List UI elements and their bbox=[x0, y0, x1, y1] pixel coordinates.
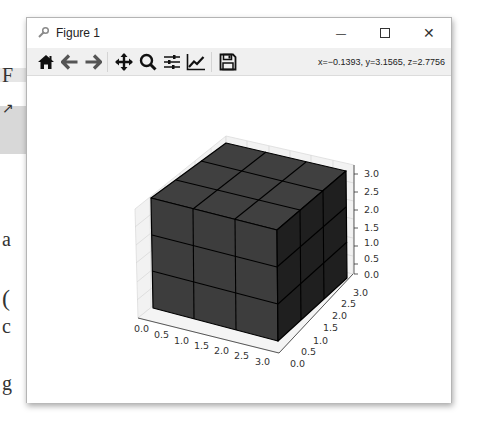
forward-button[interactable] bbox=[82, 51, 104, 73]
z-axis-tick-labels: 3.0 2.5 2.0 1.5 1.0 0.5 0.0 bbox=[364, 168, 379, 280]
arrow-left-icon bbox=[61, 54, 79, 70]
background-glyph: g bbox=[2, 372, 12, 395]
floppy-disk-icon bbox=[219, 53, 237, 71]
svg-text:1.0: 1.0 bbox=[174, 335, 189, 346]
maximize-icon bbox=[380, 28, 390, 38]
configure-subplots-button[interactable] bbox=[161, 51, 183, 73]
window-title: Figure 1 bbox=[56, 26, 100, 40]
svg-text:2.0: 2.0 bbox=[332, 310, 347, 321]
svg-text:0.5: 0.5 bbox=[301, 346, 316, 357]
svg-text:2.5: 2.5 bbox=[364, 186, 379, 197]
cursor-coordinates: x=−0.1393, y=3.1565, z=2.7756 bbox=[318, 57, 445, 67]
move-icon bbox=[115, 53, 133, 71]
background-glyph: ↗ bbox=[2, 100, 14, 117]
minimize-icon: — bbox=[336, 28, 346, 39]
background-app-edge: F ↗ a ( c g bbox=[0, 0, 28, 424]
toolbar-separator bbox=[107, 52, 108, 72]
toolbar-separator bbox=[211, 52, 212, 72]
svg-text:3.0: 3.0 bbox=[353, 287, 368, 298]
svg-text:1.0: 1.0 bbox=[313, 335, 328, 346]
svg-text:3.0: 3.0 bbox=[364, 168, 379, 179]
svg-text:2.5: 2.5 bbox=[341, 298, 356, 309]
home-icon bbox=[37, 54, 55, 70]
svg-text:1.0: 1.0 bbox=[364, 237, 379, 248]
svg-text:1.5: 1.5 bbox=[194, 340, 209, 351]
minimize-button[interactable]: — bbox=[319, 18, 363, 48]
navigation-toolbar: x=−0.1393, y=3.1565, z=2.7756 bbox=[27, 48, 451, 76]
background-glyph: c bbox=[2, 315, 11, 338]
back-button[interactable] bbox=[59, 51, 81, 73]
svg-text:1.5: 1.5 bbox=[364, 222, 379, 233]
svg-text:2.5: 2.5 bbox=[234, 350, 249, 361]
matplotlib-app-icon bbox=[36, 26, 50, 40]
svg-text:0.5: 0.5 bbox=[154, 329, 169, 340]
z-axis bbox=[354, 165, 358, 274]
magnifier-icon bbox=[139, 53, 157, 71]
svg-text:0.5: 0.5 bbox=[364, 253, 379, 264]
svg-text:0.0: 0.0 bbox=[134, 323, 149, 334]
zoom-button[interactable] bbox=[137, 51, 159, 73]
close-button[interactable]: ✕ bbox=[407, 18, 451, 48]
line-chart-icon bbox=[186, 53, 206, 71]
svg-text:2.0: 2.0 bbox=[364, 204, 379, 215]
svg-text:0.0: 0.0 bbox=[364, 269, 379, 280]
figure-canvas[interactable]: 3.0 2.5 2.0 1.5 1.0 0.5 0.0 0.0 0.5 1.0 … bbox=[27, 77, 451, 403]
background-glyph: ( bbox=[2, 285, 10, 312]
background-glyph: a bbox=[2, 228, 11, 251]
maximize-button[interactable] bbox=[363, 18, 407, 48]
svg-text:1.5: 1.5 bbox=[323, 322, 338, 333]
edit-axes-button[interactable] bbox=[185, 51, 207, 73]
voxel-3d-plot: 3.0 2.5 2.0 1.5 1.0 0.5 0.0 0.0 0.5 1.0 … bbox=[27, 77, 451, 403]
svg-text:2.0: 2.0 bbox=[214, 345, 229, 356]
svg-text:3.0: 3.0 bbox=[255, 356, 270, 367]
title-bar[interactable]: Figure 1 — ✕ bbox=[27, 18, 451, 48]
save-button[interactable] bbox=[217, 51, 239, 73]
home-button[interactable] bbox=[35, 51, 57, 73]
figure-window: Figure 1 — ✕ bbox=[26, 17, 452, 403]
svg-text:0.0: 0.0 bbox=[290, 358, 305, 369]
background-glyph: F bbox=[2, 64, 13, 87]
close-icon: ✕ bbox=[423, 25, 435, 41]
pan-button[interactable] bbox=[113, 51, 135, 73]
sliders-icon bbox=[163, 53, 181, 71]
arrow-right-icon bbox=[84, 54, 102, 70]
